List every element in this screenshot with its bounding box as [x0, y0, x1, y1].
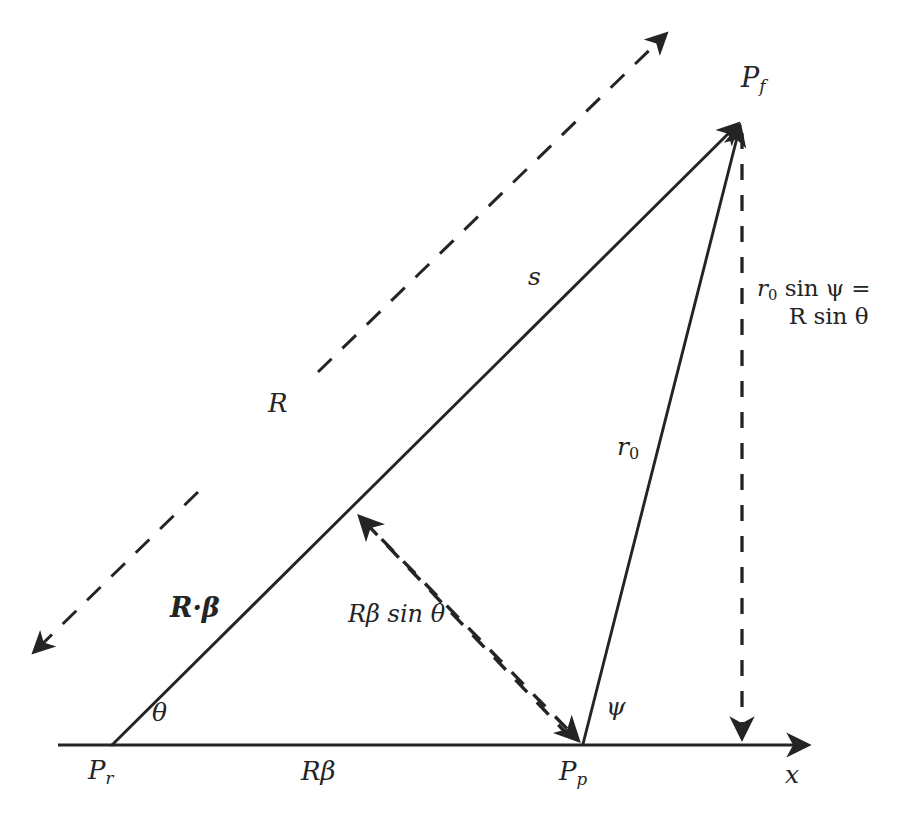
- label-angle-psi: ψ: [606, 692, 626, 722]
- vector-R-dashed-upper: [318, 34, 666, 372]
- label-axis-x: x: [785, 760, 799, 790]
- label-base-rbeta: Rβ: [301, 756, 336, 787]
- label-height-equation: r0 sin ψ =R sin θ: [757, 275, 871, 331]
- ray-pp-to-pf: [583, 126, 740, 744]
- label-segment-s: s: [528, 262, 541, 292]
- label-segment-r0: r0: [617, 432, 639, 464]
- label-point-pf: Pf: [741, 62, 766, 96]
- label-angle-theta: θ: [152, 698, 167, 728]
- perp-rbeta-sin-theta-dashed-b: [360, 517, 578, 740]
- label-vector-r-dot-beta: R·β: [170, 592, 220, 624]
- label-vector-r: R: [268, 388, 288, 419]
- label-point-pp: Pp: [559, 756, 587, 789]
- vector-R-dashed-lower: [34, 492, 198, 652]
- ray-pr-to-pf: [112, 124, 738, 745]
- figure-canvas: Pf s r0 sin ψ =R sin θ r0 R R·β Rβ sin θ…: [0, 0, 902, 823]
- label-point-pr: Pr: [88, 755, 113, 788]
- label-rbeta-sin-theta: Rβ sin θ: [348, 600, 445, 628]
- diagram-svg: [0, 0, 902, 823]
